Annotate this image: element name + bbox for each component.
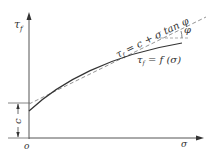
y-axis xyxy=(27,12,32,139)
cohesion-label: c xyxy=(12,118,23,124)
x-axis-label: σ xyxy=(181,139,188,149)
cohesion-dimension: c xyxy=(8,103,30,138)
shear-strength-diagram: τf o σ c φ τf = c + σ tan φ xyxy=(0,0,212,158)
origin-label: o xyxy=(24,141,30,151)
curved-envelope-equation: τf = f (σ) xyxy=(137,54,181,67)
x-axis xyxy=(29,136,204,141)
y-axis-label: τf xyxy=(14,18,24,33)
